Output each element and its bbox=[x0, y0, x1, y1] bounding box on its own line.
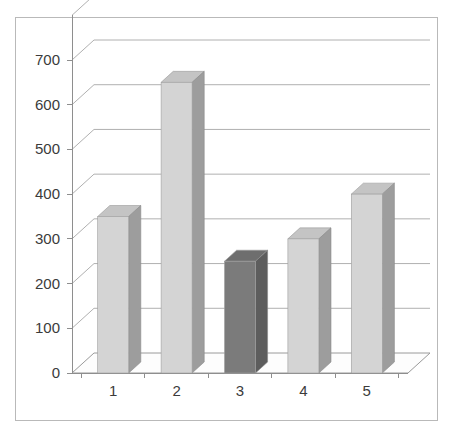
bar-front-face-3 bbox=[225, 261, 256, 373]
bar-front-face-5 bbox=[351, 194, 382, 373]
x-tick-label-3: 3 bbox=[236, 382, 244, 399]
x-tick-label-2: 2 bbox=[172, 382, 180, 399]
x-tick-label-1: 1 bbox=[109, 382, 117, 399]
bars-group bbox=[98, 71, 395, 373]
bar-front-face-4 bbox=[288, 239, 319, 373]
gridline-700 bbox=[72, 40, 430, 60]
y-axis-labels: 0100200300400500600700 bbox=[35, 51, 60, 381]
bar-front-face-2 bbox=[161, 82, 192, 373]
bar-side-face-5 bbox=[382, 183, 394, 373]
bar-4[interactable] bbox=[288, 228, 331, 373]
y-tick-label-400: 400 bbox=[35, 185, 60, 202]
bar-front-face-1 bbox=[98, 217, 129, 374]
bar-chart: 0100200300400500600700 12345 bbox=[0, 0, 454, 441]
x-tick-label-5: 5 bbox=[363, 382, 371, 399]
bar-side-face-2 bbox=[192, 71, 204, 373]
bar-side-face-4 bbox=[319, 228, 331, 373]
bar-3[interactable] bbox=[225, 250, 268, 373]
bar-1[interactable] bbox=[98, 206, 141, 374]
y-tick-label-500: 500 bbox=[35, 140, 60, 157]
y-tick-label-300: 300 bbox=[35, 230, 60, 247]
y-tick-label-100: 100 bbox=[35, 319, 60, 336]
gridline-500 bbox=[72, 129, 430, 149]
y-tick-label-200: 200 bbox=[35, 275, 60, 292]
bar-side-face-1 bbox=[129, 206, 141, 374]
bar-side-face-3 bbox=[256, 250, 268, 373]
y-tick-label-0: 0 bbox=[52, 364, 60, 381]
gridline-top bbox=[72, 0, 430, 15]
bar-5[interactable] bbox=[351, 183, 394, 373]
y-tick-label-600: 600 bbox=[35, 96, 60, 113]
x-tick-label-4: 4 bbox=[299, 382, 307, 399]
gridline-600 bbox=[72, 85, 430, 105]
y-tick-label-700: 700 bbox=[35, 51, 60, 68]
x-axis-labels: 12345 bbox=[109, 382, 371, 399]
bar-2[interactable] bbox=[161, 71, 204, 373]
